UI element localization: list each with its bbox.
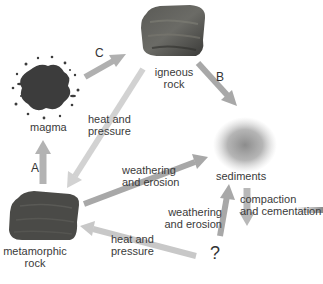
magma-label: magma bbox=[30, 121, 67, 133]
arrow-label-c: C bbox=[95, 46, 104, 60]
weathering-erosion-label-left: weathering and erosion bbox=[122, 164, 180, 188]
arrow-label-b: B bbox=[216, 70, 224, 84]
unknown-rock-label: ? bbox=[210, 243, 220, 264]
heat-pressure-top-line1: heat and bbox=[88, 113, 131, 125]
igneous-label-line1: igneous bbox=[149, 66, 199, 78]
arrow-label-a: A bbox=[31, 161, 39, 175]
igneous-rock-label: igneous rock bbox=[149, 66, 199, 90]
igneous-rock-image bbox=[141, 5, 205, 56]
sediments-image bbox=[213, 117, 277, 173]
rock-cycle-diagram bbox=[0, 0, 323, 284]
weathering-left-line1: weathering bbox=[122, 164, 180, 176]
heat-pressure-bottom-line1: heat and bbox=[111, 233, 154, 245]
compaction-line2: and cementation bbox=[240, 205, 321, 217]
heat-pressure-bottom-line2: pressure bbox=[111, 245, 154, 257]
arrow-magma-to-igneous bbox=[85, 54, 126, 77]
heat-pressure-top-line2: pressure bbox=[88, 125, 131, 137]
weathering-erosion-label-right: weathering and erosion bbox=[160, 206, 222, 230]
magma-image bbox=[12, 56, 80, 120]
metamorphic-label-line2: rock bbox=[0, 257, 70, 269]
heat-pressure-label-top: heat and pressure bbox=[88, 113, 131, 137]
metamorphic-rock-label: metamorphic rock bbox=[0, 245, 70, 269]
metamorphic-label-line1: metamorphic bbox=[0, 245, 70, 257]
weathering-right-line1: weathering bbox=[160, 206, 222, 218]
weathering-right-line2: and erosion bbox=[160, 218, 222, 230]
compaction-line1: compaction bbox=[240, 193, 321, 205]
metamorphic-rock-image bbox=[9, 191, 79, 240]
arrow-unknown-to-sediments bbox=[220, 184, 235, 236]
compaction-cementation-label: compaction and cementation bbox=[240, 193, 321, 217]
heat-pressure-label-bottom: heat and pressure bbox=[111, 233, 154, 257]
sediments-label: sediments bbox=[216, 170, 266, 182]
weathering-left-line2: and erosion bbox=[122, 176, 180, 188]
igneous-label-line2: rock bbox=[149, 78, 199, 90]
